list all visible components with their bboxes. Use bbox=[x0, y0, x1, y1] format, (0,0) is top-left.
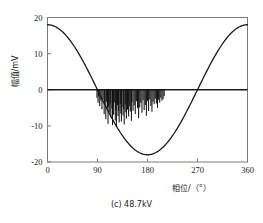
x-axis-tick-labels: 090180270360 bbox=[45, 165, 254, 175]
x-axis-title: 相位/（°） bbox=[172, 182, 211, 193]
y-tick-label: -10 bbox=[31, 121, 42, 131]
chart-plot-area: 090180270360 -20-1001020 bbox=[0, 0, 263, 223]
x-tick-label: 180 bbox=[141, 165, 154, 175]
y-tick-label: 0 bbox=[38, 85, 42, 95]
y-tick-label: 10 bbox=[34, 49, 43, 59]
y-tick-label: 20 bbox=[34, 13, 43, 23]
x-tick-label: 90 bbox=[93, 165, 102, 175]
x-tick-label: 360 bbox=[241, 165, 254, 175]
y-tick-label: -20 bbox=[31, 157, 42, 167]
x-tick-label: 0 bbox=[45, 165, 49, 175]
figure-caption: (c) 48.7kV bbox=[0, 200, 263, 209]
figure-container: 090180270360 -20-1001020 幅值/mV 相位/（°） (c… bbox=[0, 0, 263, 223]
y-axis-tick-labels: -20-1001020 bbox=[31, 13, 42, 168]
y-axis-title: 幅值/mV bbox=[9, 44, 20, 100]
x-tick-label: 270 bbox=[191, 165, 204, 175]
